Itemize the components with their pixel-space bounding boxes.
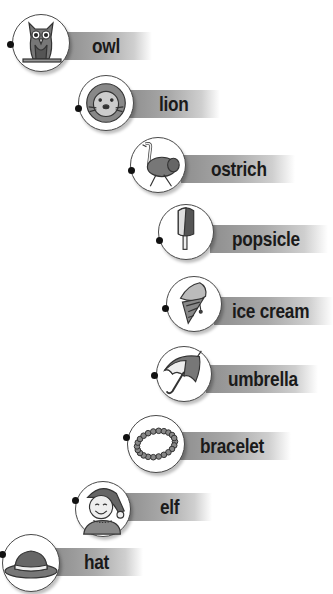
- bullet-dot: [162, 305, 169, 312]
- word-label: ostrich: [211, 155, 267, 183]
- owl-icon: [13, 15, 69, 71]
- picture-circle: [12, 14, 70, 72]
- popsicle-icon: [159, 205, 213, 259]
- bullet-dot: [72, 497, 79, 504]
- picture-circle: [2, 534, 60, 592]
- word-label: umbrella: [228, 365, 298, 393]
- word-label: popsicle: [232, 225, 300, 253]
- bullet-dot: [151, 372, 158, 379]
- ostrich-icon: [131, 138, 185, 192]
- word-label: owl: [92, 32, 120, 60]
- word-label: elf: [160, 493, 179, 521]
- bullet-dot: [7, 41, 14, 48]
- picture-circle: [158, 204, 214, 260]
- word-label: ice cream: [232, 297, 309, 325]
- picture-circle: [75, 481, 131, 537]
- bullet-dot: [128, 167, 135, 174]
- bracelet-icon: [128, 416, 184, 472]
- bullet-dot: [156, 237, 163, 244]
- hat-icon: [3, 535, 59, 591]
- word-label: lion: [159, 90, 189, 118]
- picture-circle: [130, 137, 186, 193]
- picture-circle: [166, 276, 222, 332]
- elf-icon: [76, 482, 130, 536]
- ice-cream-icon: [167, 277, 221, 331]
- picture-circle: [156, 346, 212, 402]
- bullet-dot: [123, 434, 130, 441]
- umbrella-icon: [157, 347, 211, 401]
- bullet-dot: [75, 105, 82, 112]
- word-label: hat: [84, 548, 109, 576]
- picture-circle: [78, 75, 134, 131]
- word-label: bracelet: [200, 432, 264, 460]
- picture-circle: [127, 415, 185, 473]
- lion-icon: [79, 76, 133, 130]
